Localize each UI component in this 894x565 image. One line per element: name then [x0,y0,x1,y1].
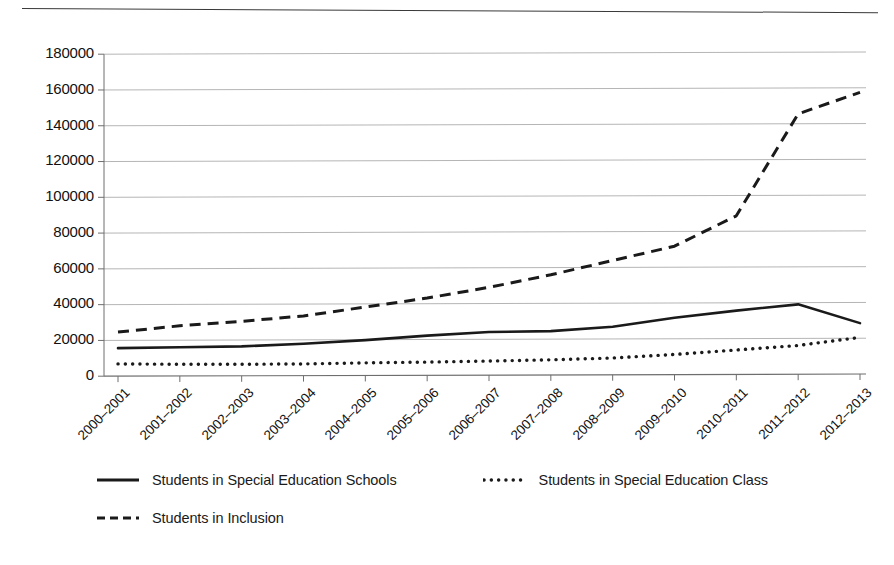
legend-row: Students in Inclusion [96,510,328,526]
y-tick-label: 40000 [16,294,94,311]
gridline [104,231,866,233]
legend-label: Students in Special Education Schools [152,472,397,488]
legend-swatch-dotted-icon [483,473,527,487]
chart-figure: 0200004000060000800001000001200001400001… [0,0,894,565]
gridline [104,302,866,304]
y-tick-label: 80000 [16,223,94,240]
legend-swatch-dashed-icon [96,511,140,525]
legend-row: Students in Special Education SchoolsStu… [96,472,812,488]
gridline [104,338,866,340]
y-tick-label: 60000 [16,259,94,276]
series-line-1 [118,304,860,348]
y-tick-label: 180000 [16,44,94,61]
gridline [104,267,866,269]
data-series-group [118,92,860,364]
y-tick-label: 120000 [16,151,94,168]
axes-group [98,54,104,376]
gridline [104,195,866,197]
legend-entry[interactable]: Students in Special Education Class [483,472,768,488]
series-line-2 [118,337,860,364]
chart-legend: Students in Special Education SchoolsStu… [96,472,886,542]
legend-label: Students in Special Education Class [539,472,768,488]
gridline [104,374,866,376]
y-tick-label: 140000 [16,116,94,133]
legend-entry[interactable]: Students in Inclusion [96,510,284,526]
y-tick-label: 100000 [16,187,94,204]
gridlines-group [104,52,866,376]
series-line-3 [118,92,860,332]
gridline [104,159,866,161]
y-tick-label: 20000 [16,330,94,347]
legend-swatch-solid-icon [96,473,140,487]
legend-label: Students in Inclusion [152,510,284,526]
gridline [104,88,866,90]
gridline [104,124,866,126]
y-tick-label: 0 [16,366,94,383]
legend-entry[interactable]: Students in Special Education Schools [96,472,397,488]
gridline [104,52,866,54]
y-tick-label: 160000 [16,80,94,97]
